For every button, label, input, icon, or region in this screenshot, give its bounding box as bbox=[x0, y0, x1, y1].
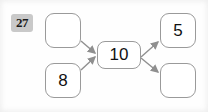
input-box-top[interactable] bbox=[45, 13, 81, 48]
input-box-bottom[interactable]: 8 bbox=[45, 63, 81, 98]
edge-in-top-to-center bbox=[81, 41, 95, 53]
output-box-bottom[interactable] bbox=[160, 63, 196, 98]
edge-center-to-out-bot bbox=[141, 58, 158, 72]
center-box[interactable]: 10 bbox=[97, 41, 141, 69]
question-number-badge: 27 bbox=[11, 14, 33, 32]
edge-in-bot-to-center bbox=[81, 57, 95, 70]
diagram-canvas: 27 8 10 5 bbox=[0, 0, 208, 112]
edge-center-to-out-top bbox=[141, 42, 158, 57]
output-box-top[interactable]: 5 bbox=[160, 13, 196, 48]
